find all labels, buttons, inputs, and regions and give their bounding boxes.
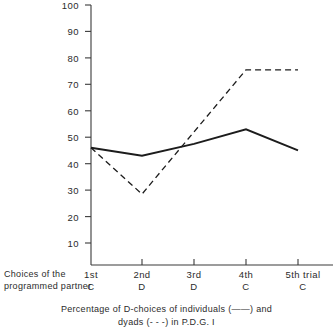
figure-caption: Percentage of D-choices of individuals (… [0, 303, 333, 328]
x-tick-ordinal-5: 5th trial [286, 269, 321, 281]
y-tick-label-40: 40 [53, 158, 79, 169]
y-axis-ticks [85, 5, 91, 243]
y-tick-label-80: 80 [53, 52, 79, 63]
figure-caption-line-1: Percentage of D-choices of individuals (… [0, 303, 333, 316]
y-tick-label-50: 50 [53, 132, 79, 143]
y-tick-label-30: 30 [53, 185, 79, 196]
x-axis-title-line-2: programmed partner [4, 281, 99, 293]
series-line-individuals [91, 129, 298, 155]
x-tick-label-trial-5: 5th trial C [286, 269, 321, 293]
y-tick-label-70: 70 [53, 79, 79, 90]
y-tick-label-60: 60 [53, 105, 79, 116]
x-tick-trial-word: trial [303, 269, 320, 280]
x-tick-ordinal-4: 4th [239, 269, 253, 281]
y-tick-label-10: 10 [53, 238, 79, 249]
x-tick-label-trial-3: 3rd D [187, 269, 202, 293]
y-tick-label-100: 100 [53, 0, 79, 11]
x-tick-choice-3: D [187, 281, 202, 293]
x-tick-label-trial-2: 2nd D [133, 269, 150, 293]
x-tick-choice-2: D [133, 281, 150, 293]
x-tick-choice-4: C [239, 281, 253, 293]
y-tick-label-90: 90 [53, 26, 79, 37]
x-tick-ordinal-2: 2nd [133, 269, 150, 281]
x-tick-choice-5: C [286, 281, 321, 293]
series-line-dyads [91, 70, 298, 194]
x-tick-ordinal-5-text: 5th [286, 269, 300, 280]
x-axis-ticks [142, 259, 298, 265]
x-axis-title-line-1: Choices of the [4, 269, 99, 281]
figure-caption-line-2: dyads (- - -) in P.D.G. I [0, 316, 333, 329]
figure-container: 100 90 80 70 60 50 40 30 20 10 1st C 2nd… [0, 0, 333, 335]
x-tick-ordinal-3: 3rd [187, 269, 202, 281]
x-axis-title: Choices of the programmed partner [4, 269, 99, 292]
y-tick-label-20: 20 [53, 211, 79, 222]
x-tick-label-trial-4: 4th C [239, 269, 253, 293]
